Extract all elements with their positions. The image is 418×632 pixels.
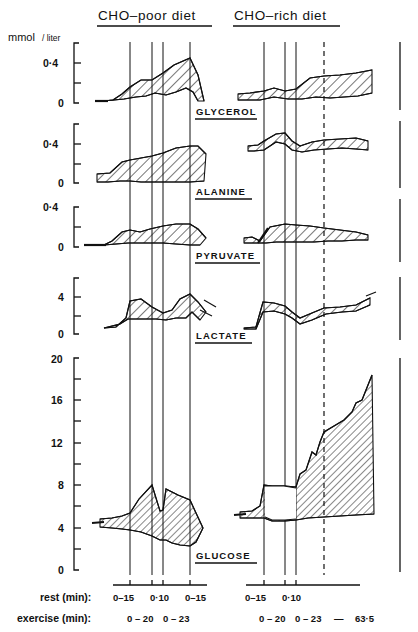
baseline-stub-glucose-left: [92, 522, 104, 523]
rest-value-left-1: 0–15: [113, 592, 135, 603]
exercise-value-left-2: 0 – 23: [163, 613, 189, 624]
exercise-value-right-1: 0 – 20: [259, 613, 285, 624]
rest-value-left-3: 0–15: [185, 592, 207, 603]
exercise-row-label: exercise (min):: [17, 612, 91, 624]
ticklabel-pyruvate-0: 0: [58, 241, 64, 253]
ticklabel-lactate-0: 0: [58, 328, 64, 340]
exercise-value-right-2: 0 – 23: [295, 613, 321, 624]
exercise-value-left-1: 0 – 20: [127, 613, 153, 624]
baseline-stub-glucose-right: [234, 514, 246, 515]
ticklabel-glucose-0: 0: [58, 564, 64, 576]
band-gap-glucose-cho-rich: [265, 486, 296, 520]
ticklabel-alanine-0-4: 0·4: [43, 138, 58, 150]
panel-label-glycerol: GLYCEROL: [196, 106, 257, 117]
panel-label-pyruvate: PYRUVATE: [196, 250, 255, 261]
rest-value-right-2: 0·10: [282, 592, 301, 603]
figure-root: CHO–poor diet CHO–rich diet mmol / liter: [0, 0, 418, 632]
ticklabel-glucose-16: 16: [51, 394, 63, 406]
ticklabel-glycerol-0: 0: [58, 97, 64, 109]
panel-label-glucose: GLUCOSE: [196, 550, 251, 561]
ticklabel-glycerol-0-4: 0·4: [43, 57, 58, 69]
y-axis-title: mmol / liter: [8, 31, 61, 43]
y-axis-title-main: mmol: [8, 31, 35, 43]
exercise-value-right-4: 63·5: [355, 613, 375, 624]
panel-label-lactate: LACTATE: [196, 330, 247, 341]
ticklabel-glucose-12: 12: [51, 437, 63, 449]
ticklabel-glucose-4: 4: [58, 522, 64, 534]
rest-value-left-2: 0·10: [150, 592, 169, 603]
panel-label-alanine: ALANINE: [196, 186, 246, 197]
ticklabel-glucose-20: 20: [51, 353, 63, 365]
ticklabel-lactate-4: 4: [58, 291, 64, 303]
ticklabel-glucose-8: 8: [58, 479, 64, 491]
exercise-value-right-3: —: [334, 613, 344, 624]
y-axis-title-sub: / liter: [42, 33, 61, 43]
ticklabel-pyruvate-0-4: 0·4: [43, 201, 58, 213]
group-label-cho-poor: CHO–poor diet: [98, 8, 196, 23]
ticklabel-alanine-0: 0: [58, 177, 64, 189]
rest-value-right-1: 0–15: [245, 592, 267, 603]
figure-svg: CHO–poor diet CHO–rich diet mmol / liter: [0, 0, 418, 632]
rest-row-label: rest (min):: [40, 591, 91, 603]
group-label-cho-rich: CHO–rich diet: [234, 8, 327, 23]
